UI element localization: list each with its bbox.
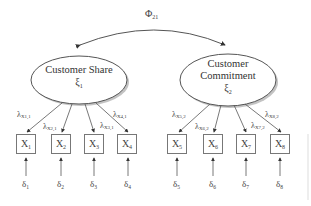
latent-name: Customer Share: [31, 64, 127, 76]
error-label-d5: δ5: [173, 180, 180, 191]
path-diagram-canvas: [0, 0, 311, 206]
indicator-x2: X2: [51, 134, 71, 154]
error-label-d6: δ6: [209, 180, 216, 191]
latent-name-line-1: Customer: [180, 58, 276, 70]
indicator-x8: X8: [270, 134, 290, 154]
loading-label-x1: λX1,1: [17, 111, 31, 119]
loading-label-x2: λX2,1: [43, 123, 57, 131]
loading-label-x3: λX3,1: [100, 122, 114, 130]
loading-label-x4: λX4,1: [113, 111, 127, 119]
error-label-d8: δ8: [276, 180, 283, 191]
error-label-d4: δ4: [124, 180, 131, 191]
error-label-d7: δ7: [242, 180, 249, 191]
covariance-label: Φ21: [145, 9, 158, 20]
latent-name-line-2: Commitment: [180, 70, 276, 82]
error-label-d1: δ1: [22, 180, 29, 191]
loading-label-x5: λX5,2: [172, 111, 186, 119]
latent-customer-commitment: Customer Commitment ξ2: [180, 58, 276, 98]
indicator-x3: X3: [84, 134, 104, 154]
indicator-x7: X7: [236, 134, 256, 154]
latent-customer-share: Customer Share ξ1: [31, 64, 127, 92]
error-label-d2: δ2: [57, 180, 64, 191]
indicator-x6: X6: [203, 134, 223, 154]
indicator-x5: X5: [167, 134, 187, 154]
latent-symbol: ξ1: [31, 76, 127, 92]
phi-subscript: 21: [152, 14, 158, 20]
loading-label-x7: λX7,2: [251, 122, 265, 130]
indicator-x1: X1: [16, 134, 36, 154]
loading-label-x8: λX8,2: [265, 111, 279, 119]
error-label-d3: δ3: [90, 180, 97, 191]
indicator-x4: X4: [117, 134, 137, 154]
latent-symbol: ξ2: [180, 82, 276, 98]
loading-label-x6: λX6,2: [195, 123, 209, 131]
covariance-arc: [80, 30, 225, 45]
